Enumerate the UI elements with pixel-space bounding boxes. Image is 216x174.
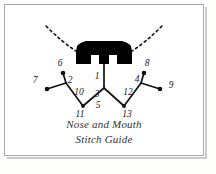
stitch-label-12: 12 <box>123 87 133 97</box>
stitch-line-right-to-point-9 <box>141 83 160 89</box>
stitch-label-1: 1 <box>95 71 100 81</box>
stitch-dot-7 <box>45 87 50 92</box>
stitch-label-4: 4 <box>135 74 140 84</box>
stitch-label-9: 9 <box>169 80 174 90</box>
stitch-dot-6 <box>61 71 66 76</box>
stitch-label-7: 7 <box>33 75 39 85</box>
stitch-label-10: 10 <box>74 87 84 97</box>
stitch-label-2: 2 <box>68 75 73 85</box>
caption-line-2: Stitch Guide <box>4 133 204 145</box>
caption-line-1: Nose and Mouth <box>4 118 204 130</box>
stitch-dot-13 <box>122 104 126 108</box>
stitch-dot-9 <box>158 87 163 92</box>
stitch-dot-11 <box>81 104 85 108</box>
stitch-label-8: 8 <box>145 58 150 68</box>
stitch-label-5: 5 <box>96 100 101 110</box>
stitch-label-3: 3 <box>94 89 100 99</box>
right-whisker-dashed-line <box>132 26 162 51</box>
stitch-dot-8 <box>142 71 147 76</box>
stitch-label-6: 6 <box>58 58 63 68</box>
stitch-guide-page: 1 2 3 4 5 6 7 8 9 10 11 12 13 Nose and M… <box>0 0 216 174</box>
stitch-line-left-to-point-7 <box>47 83 66 89</box>
left-whisker-dashed-line <box>46 26 76 51</box>
nose-shape <box>76 41 132 64</box>
